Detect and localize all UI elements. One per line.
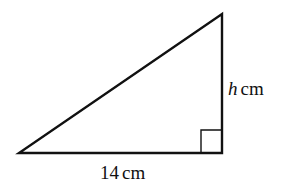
base-unit: cm bbox=[122, 162, 145, 183]
height-variable: h bbox=[228, 78, 238, 99]
height-label: hcm bbox=[228, 78, 264, 99]
base-label: 14cm bbox=[100, 162, 145, 183]
right-angle-marker bbox=[201, 130, 222, 153]
height-unit: cm bbox=[241, 78, 264, 99]
base-value: 14 bbox=[100, 162, 120, 183]
triangle-diagram: hcm 14cm bbox=[0, 0, 295, 184]
right-triangle bbox=[19, 14, 222, 153]
